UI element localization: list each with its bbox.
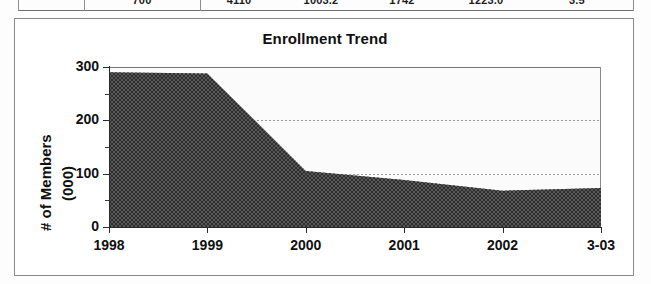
- x-axis-line: [109, 227, 602, 228]
- y-tick-label-100: 100: [57, 165, 99, 181]
- x-tick-3-03: [601, 228, 602, 233]
- y-tick-label-0: 0: [57, 218, 99, 234]
- x-tick-2000: [306, 228, 307, 233]
- table-cell: 1223.0: [440, 0, 532, 6]
- plot-top-border: [109, 67, 601, 68]
- table-cell: 700: [84, 0, 200, 6]
- x-tick-label-2001: 2001: [372, 237, 436, 253]
- enrollment-area-series: [109, 67, 601, 227]
- y-tick-minor-250: [105, 94, 109, 95]
- x-tick-label-3-03: 3-03: [569, 237, 633, 253]
- chart-figure-frame: Enrollment Trend # of Members (000) 0100…: [14, 18, 634, 276]
- y-axis-line: [109, 66, 110, 228]
- table-cell: 4110: [200, 0, 278, 6]
- y-tick-minor-150: [105, 147, 109, 148]
- x-tick-2002: [503, 228, 504, 233]
- table-cell: 3.5: [532, 0, 622, 6]
- x-tick-1998: [109, 228, 110, 233]
- table-cell: 1003.2: [278, 0, 364, 6]
- x-tick-label-1999: 1999: [175, 237, 239, 253]
- table-row: 700 4110 1003.2 1742 1223.0 3.5: [0, 0, 651, 9]
- y-tick-label-200: 200: [57, 111, 99, 127]
- y-tick-100: [103, 174, 109, 175]
- x-tick-label-2000: 2000: [274, 237, 338, 253]
- table-bottom-rule: [18, 10, 633, 11]
- x-tick-2001: [404, 228, 405, 233]
- chart-title: Enrollment Trend: [15, 30, 635, 47]
- x-tick-label-2002: 2002: [471, 237, 535, 253]
- y-tick-label-300: 300: [57, 58, 99, 74]
- x-tick-1999: [207, 228, 208, 233]
- clipped-table-row-strip: 700 4110 1003.2 1742 1223.0 3.5: [0, 0, 651, 14]
- x-tick-label-1998: 1998: [77, 237, 141, 253]
- y-tick-300: [103, 67, 109, 68]
- y-tick-minor-50: [105, 200, 109, 201]
- y-tick-200: [103, 120, 109, 121]
- plot-area: [109, 67, 601, 227]
- y-axis-label-line-1: # of Members: [37, 134, 54, 231]
- table-cell: 1742: [364, 0, 440, 6]
